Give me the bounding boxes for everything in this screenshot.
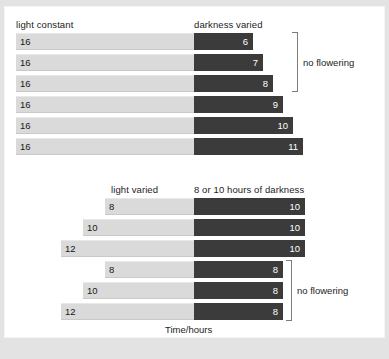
dark-value-label: 10 bbox=[289, 202, 300, 212]
dark-value-label: 8 bbox=[273, 307, 278, 317]
light-value-label: 12 bbox=[65, 307, 76, 317]
dark-value-label: 10 bbox=[289, 244, 300, 254]
dark-segment: 9 bbox=[194, 96, 283, 113]
light-value-label: 12 bbox=[65, 244, 76, 254]
dark-value-label: 8 bbox=[273, 286, 278, 296]
dark-value-label: 10 bbox=[277, 121, 288, 131]
light-value-label: 10 bbox=[87, 286, 98, 296]
top-chart-light-heading: light constant bbox=[16, 19, 73, 30]
dark-segment: 8 bbox=[194, 75, 273, 92]
light-segment: 8 bbox=[105, 261, 194, 278]
dark-segment: 10 bbox=[194, 219, 305, 236]
light-value-label: 16 bbox=[20, 79, 31, 89]
dark-value-label: 9 bbox=[273, 100, 278, 110]
light-segment: 8 bbox=[105, 198, 194, 215]
light-value-label: 16 bbox=[20, 142, 31, 152]
light-value-label: 16 bbox=[20, 121, 31, 131]
figure-panel: light constant darkness varied 16 6 16 7 bbox=[5, 7, 384, 337]
top-chart-bracket bbox=[292, 32, 298, 92]
light-value-label: 16 bbox=[20, 37, 31, 47]
light-segment: 16 bbox=[16, 96, 194, 113]
light-segment: 10 bbox=[83, 219, 194, 236]
light-value-label: 8 bbox=[109, 265, 114, 275]
dark-segment: 8 bbox=[194, 282, 283, 299]
light-value-label: 8 bbox=[109, 202, 114, 212]
light-segment: 16 bbox=[16, 33, 194, 50]
dark-segment: 6 bbox=[194, 33, 253, 50]
light-value-label: 16 bbox=[20, 100, 31, 110]
dark-segment: 10 bbox=[194, 117, 293, 134]
light-value-label: 16 bbox=[20, 58, 31, 68]
light-segment: 12 bbox=[61, 240, 194, 257]
light-segment: 10 bbox=[83, 282, 194, 299]
light-segment: 16 bbox=[16, 138, 194, 155]
bottom-chart-annotation-label: no flowering bbox=[297, 285, 348, 296]
dark-value-label: 6 bbox=[243, 37, 248, 47]
dark-segment: 7 bbox=[194, 54, 263, 71]
light-value-label: 10 bbox=[87, 223, 98, 233]
dark-value-label: 10 bbox=[289, 223, 300, 233]
bottom-chart-dark-heading: 8 or 10 hours of darkness bbox=[194, 184, 304, 195]
dark-value-label: 7 bbox=[253, 58, 258, 68]
bottom-chart-light-heading: light varied bbox=[111, 184, 158, 195]
axis-caption: Time/hours bbox=[165, 324, 212, 335]
light-segment: 16 bbox=[16, 75, 194, 92]
light-segment: 16 bbox=[16, 54, 194, 71]
dark-segment: 10 bbox=[194, 240, 305, 257]
dark-value-label: 8 bbox=[263, 79, 268, 89]
dark-value-label: 11 bbox=[288, 142, 298, 152]
dark-value-label: 8 bbox=[273, 265, 278, 275]
dark-segment: 8 bbox=[194, 303, 283, 320]
dark-segment: 8 bbox=[194, 261, 283, 278]
bottom-chart-bracket bbox=[286, 260, 292, 321]
top-chart-annotation-label: no flowering bbox=[303, 57, 354, 68]
dark-segment: 11 bbox=[194, 138, 303, 155]
dark-segment: 10 bbox=[194, 198, 305, 215]
light-segment: 16 bbox=[16, 117, 194, 134]
light-segment: 12 bbox=[61, 303, 194, 320]
top-chart-dark-heading: darkness varied bbox=[194, 19, 263, 30]
figure-container: light constant darkness varied 16 6 16 7 bbox=[0, 0, 389, 359]
